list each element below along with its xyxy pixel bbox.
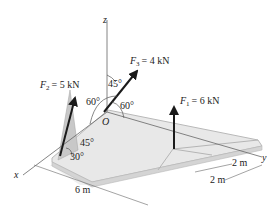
dim-width-label-2: 2 m — [210, 174, 226, 185]
angle-f3-y: 60° — [120, 100, 134, 111]
dim-2m-b — [195, 164, 232, 172]
x-label: x — [13, 169, 19, 180]
origin-label: O — [102, 116, 109, 127]
angle-f3-z: 45° — [108, 78, 122, 89]
angle-f2-horiz: 30° — [70, 151, 84, 162]
y-label: y — [261, 152, 267, 163]
dim-length-label: 6 m — [75, 184, 91, 195]
force-diagram: z x y O F3= 4 kN F2= 5 kN F1= 6 kN 45° 6… — [0, 0, 273, 210]
dim-width-label-1: 2 m — [232, 157, 248, 168]
z-label: z — [102, 14, 107, 25]
angle-f2-vert: 45° — [80, 137, 94, 148]
f1-label: F1= 6 kN — [179, 95, 219, 108]
angle-f3-x: 60° — [86, 96, 100, 107]
f2-label: F2= 5 kN — [39, 79, 79, 92]
f3-label: F3= 4 kN — [129, 55, 169, 68]
